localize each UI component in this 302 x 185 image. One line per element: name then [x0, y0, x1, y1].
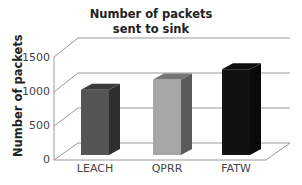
- x-label-leach: LEACH: [70, 162, 120, 175]
- chart-plot-area: [0, 0, 302, 185]
- bar-qprr: [153, 74, 192, 155]
- bars: [81, 63, 261, 155]
- bar-fatw: [222, 63, 261, 155]
- x-label-fatw: FATW: [211, 162, 261, 175]
- x-label-qprr: QPRR: [142, 162, 192, 175]
- bar-leach: [81, 84, 120, 155]
